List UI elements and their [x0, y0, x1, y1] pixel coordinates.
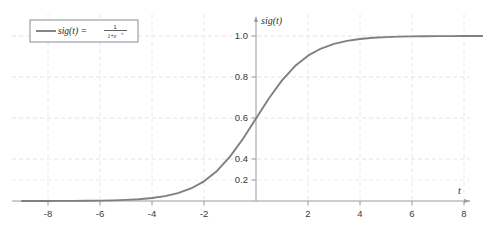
fraction-denominator-base: 1+e [107, 33, 117, 39]
x-tick-label-2: -4 [148, 208, 156, 219]
y-axis [254, 16, 258, 201]
x-tick-label-3: -2 [200, 208, 208, 219]
x-tick-label-1: -6 [96, 208, 104, 219]
x-tick-label-6: 6 [409, 208, 414, 219]
sigmoid-curve [22, 36, 482, 201]
y-tick-label-0: 0.2 [235, 174, 248, 185]
y-tick-label-4: 1.0 [235, 30, 248, 41]
chart-figure: -8 -6 -4 -2 2 4 6 8 0.2 0.4 0.6 0.8 1.0 … [0, 0, 483, 236]
legend[interactable]: sig(t) = 1 1+e -t [30, 20, 138, 42]
sigmoid-plot: -8 -6 -4 -2 2 4 6 8 0.2 0.4 0.6 0.8 1.0 … [0, 0, 483, 236]
x-tick-label-4: 2 [305, 208, 310, 219]
fraction-numerator: 1 [113, 24, 116, 30]
y-tick-label-1: 0.4 [235, 153, 248, 164]
x-tick-marks [48, 201, 464, 205]
y-axis-title: sig(t) [261, 15, 283, 27]
y-tick-marks [252, 36, 256, 180]
y-tick-label-3: 0.8 [235, 71, 248, 82]
x-axis-arrow-icon [464, 199, 470, 203]
y-axis-arrow-icon [254, 16, 258, 22]
x-tick-label-0: -8 [44, 208, 52, 219]
x-tick-label-5: 4 [357, 208, 362, 219]
x-tick-labels: -8 -6 -4 -2 2 4 6 8 [44, 208, 467, 219]
x-axis-title: t [458, 185, 461, 196]
y-tick-labels: 0.2 0.4 0.6 0.8 1.0 [235, 30, 248, 185]
x-tick-label-7: 8 [461, 208, 466, 219]
y-tick-label-2: 0.6 [235, 112, 248, 123]
legend-label: sig(t) = [58, 26, 87, 37]
